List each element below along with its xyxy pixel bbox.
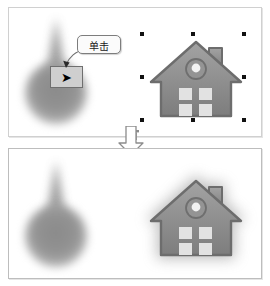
teardrop-blob-after — [17, 161, 95, 273]
teardrop-blob-shape — [17, 161, 95, 273]
house-icon — [147, 175, 245, 261]
selection-handle-ne[interactable] — [242, 32, 246, 36]
house-clipart-before[interactable] — [147, 36, 245, 122]
blob-tail — [45, 161, 67, 223]
selection-handle-nw[interactable] — [140, 32, 144, 36]
selection-handle-w[interactable] — [140, 75, 144, 79]
selection-handle-e[interactable] — [242, 75, 246, 79]
arrow-button[interactable]: ➤ — [50, 66, 83, 88]
right-arrow-icon: ➤ — [61, 71, 72, 84]
selection-handle-s[interactable] — [191, 118, 195, 122]
illustration-root: ➤ 单击 — [0, 0, 270, 286]
selection-handle-se[interactable] — [242, 118, 246, 122]
house-icon — [147, 36, 245, 122]
before-panel: ➤ 单击 — [8, 7, 262, 137]
after-panel — [8, 148, 262, 279]
callout-label: 单击 — [78, 37, 120, 52]
blob-bulb — [25, 205, 87, 267]
selection-handle-sw[interactable] — [140, 118, 144, 122]
house-clipart-after[interactable] — [147, 175, 245, 261]
click-callout: 单击 — [77, 35, 121, 54]
selection-handle-n[interactable] — [191, 32, 195, 36]
